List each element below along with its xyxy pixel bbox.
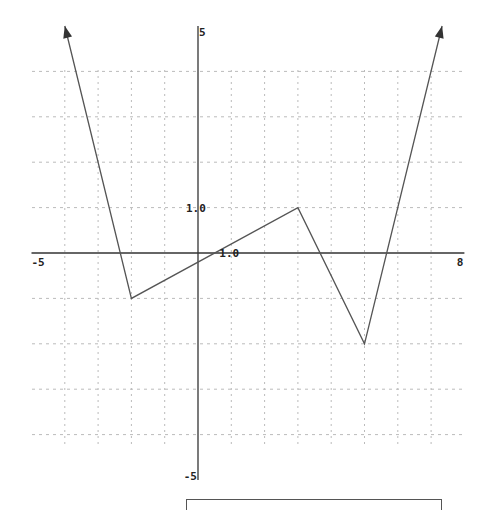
x-min-label: -5 [32, 256, 45, 269]
function-polyline [65, 26, 442, 344]
grid-lines [32, 70, 465, 446]
arrowhead-icon [435, 26, 444, 39]
y-unit-label: 1.0 [186, 202, 206, 215]
axes [32, 26, 465, 480]
x-max-label: 8 [457, 256, 464, 269]
y-max-label: 5 [199, 26, 206, 39]
answer-input-box[interactable] [186, 499, 442, 510]
y-min-label: -5 [184, 470, 197, 483]
x-unit-label: 1.0 [219, 247, 239, 260]
arrowhead-icon [63, 26, 72, 39]
function-line [63, 26, 443, 344]
axis-labels: -5 8 5 -5 1.0 1.0 [32, 26, 464, 483]
